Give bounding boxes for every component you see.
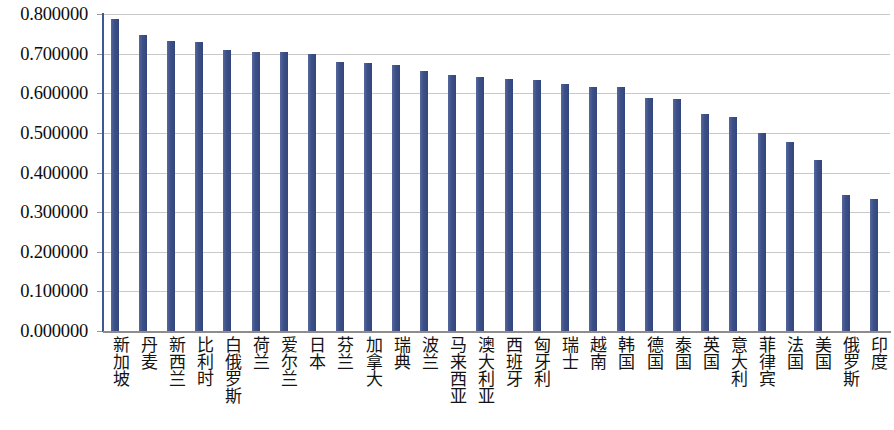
x-axis-tick-label: 加拿大: [355, 336, 381, 387]
bar: [476, 77, 484, 331]
bar: [786, 142, 794, 331]
y-axis: 0.0000000.1000000.2000000.3000000.400000…: [0, 0, 96, 345]
x-axis-tick-label: 马来西亚: [439, 336, 465, 404]
bar: [280, 52, 288, 331]
x-axis-tick-label: 新西兰: [158, 336, 184, 387]
bar: [420, 71, 428, 331]
bar: [252, 52, 260, 331]
gridline: [103, 14, 890, 15]
x-axis-tick-label: 美国: [805, 336, 831, 370]
gridline: [103, 133, 890, 134]
x-axis-tick-label: 澳大利亚: [467, 336, 493, 404]
y-axis-tick-label: 0.700000: [20, 44, 88, 63]
bar: [701, 114, 709, 331]
bar: [167, 41, 175, 331]
gridline: [103, 291, 890, 292]
x-axis-tick-label: 越南: [580, 336, 606, 370]
bar: [842, 195, 850, 331]
x-axis-tick-label: 瑞典: [383, 336, 409, 370]
gridline: [103, 54, 890, 55]
x-axis-tick-label: 芬兰: [327, 336, 353, 370]
x-axis-tick-label: 爱尔兰: [271, 336, 297, 387]
gridline: [103, 173, 890, 174]
x-axis-tick-label: 韩国: [608, 336, 634, 370]
x-axis-tick-label: 荷兰: [243, 336, 269, 370]
bar: [729, 117, 737, 331]
x-axis-tick-label: 西班牙: [496, 336, 522, 387]
x-axis-tick-label: 法国: [777, 336, 803, 370]
x-axis-tick-label: 匈牙利: [524, 336, 550, 387]
x-axis-tick-label: 印度: [861, 336, 887, 370]
bar: [870, 199, 878, 331]
bar: [561, 84, 569, 331]
y-axis-tick-label: 0.100000: [20, 282, 88, 301]
y-axis-tick-label: 0.600000: [20, 84, 88, 103]
x-axis-tick-label: 新加坡: [102, 336, 128, 387]
bar: [139, 35, 147, 331]
bar: [758, 133, 766, 331]
bar: [645, 98, 653, 331]
bar: [223, 50, 231, 331]
bar: [814, 160, 822, 331]
bar: [617, 87, 625, 331]
y-axis-tick-label: 0.500000: [20, 124, 88, 143]
y-axis-tick-label: 0.300000: [20, 203, 88, 222]
x-axis-tick-label: 俄罗斯: [833, 336, 859, 387]
x-axis-line: [103, 331, 891, 333]
x-axis-tick-label: 意大利: [720, 336, 746, 387]
x-axis-tick-label: 白俄罗斯: [214, 336, 240, 404]
bar: [308, 54, 316, 331]
y-axis-tick-label: 0.000000: [20, 322, 88, 341]
plot-area: [103, 14, 890, 331]
bar: [505, 79, 513, 331]
bar: [336, 62, 344, 331]
gridline: [103, 212, 890, 213]
bar: [589, 87, 597, 331]
bar-chart: 0.0000000.1000000.2000000.3000000.400000…: [0, 0, 894, 430]
x-axis-tick-label: 比利时: [186, 336, 212, 387]
y-axis-tick-label: 0.800000: [20, 5, 88, 24]
y-axis-line: [102, 13, 104, 332]
bar: [533, 80, 541, 331]
x-axis-tick-label: 英国: [692, 336, 718, 370]
y-axis-tick-label: 0.400000: [20, 163, 88, 182]
y-axis-tick-label: 0.200000: [20, 243, 88, 262]
gridline: [103, 252, 890, 253]
x-axis-tick-label: 日本: [299, 336, 325, 370]
bar: [392, 65, 400, 331]
x-axis-tick-label: 德国: [636, 336, 662, 370]
x-axis-tick-label: 丹麦: [130, 336, 156, 370]
x-axis-tick-label: 泰国: [664, 336, 690, 370]
bar: [448, 75, 456, 331]
gridline: [103, 93, 890, 94]
bar: [195, 42, 203, 331]
x-axis: 新加坡丹麦新西兰比利时白俄罗斯荷兰爱尔兰日本芬兰加拿大瑞典波兰马来西亚澳大利亚西…: [103, 336, 890, 430]
x-axis-tick-label: 波兰: [411, 336, 437, 370]
x-axis-tick-label: 菲律宾: [749, 336, 775, 387]
bar: [364, 63, 372, 331]
bar: [111, 19, 119, 331]
x-axis-tick-label: 瑞士: [552, 336, 578, 370]
bar: [673, 99, 681, 331]
